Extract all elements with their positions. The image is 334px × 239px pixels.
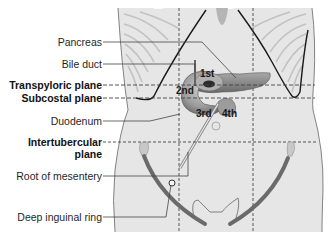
label-root-of-mesentery: Root of mesentery: [16, 170, 102, 182]
deep-inguinal-ring: [169, 180, 175, 186]
duodenum-fourth-label: 4th: [222, 108, 237, 119]
left-iliac-crest: [139, 142, 148, 156]
label-pancreas: Pancreas: [58, 36, 102, 48]
label-subcostal-plane: Subcostal plane: [21, 92, 102, 104]
duodenum-first-label: 1st: [200, 68, 215, 79]
label-intertubercular-plane: Intertubercular plane: [28, 136, 102, 160]
duodenum-third-label: 3rd: [196, 108, 212, 119]
label-bile-duct: Bile duct: [62, 58, 102, 70]
label-intertubercular-line1: Intertubercular: [28, 136, 102, 148]
pylorus: [203, 81, 215, 88]
label-transpyloric-plane: Transpyloric plane: [9, 79, 102, 91]
duodenum-second-label: 2nd: [176, 85, 194, 96]
label-duodenum: Duodenum: [51, 115, 102, 127]
label-deep-inguinal-ring: Deep inguinal ring: [17, 211, 102, 223]
label-intertubercular-line2: plane: [28, 148, 102, 160]
